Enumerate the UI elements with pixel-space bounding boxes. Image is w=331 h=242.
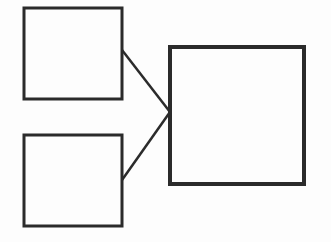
nodes-group: [24, 8, 304, 226]
connector-bottom-left-to-right: [122, 112, 170, 180]
box-top-left: [24, 8, 122, 99]
edges-group: [122, 50, 170, 180]
box-bottom-left: [24, 135, 122, 226]
diagram-canvas: [0, 0, 331, 242]
diagram-svg: [0, 0, 331, 242]
box-right: [170, 47, 304, 184]
connector-top-left-to-right: [122, 50, 170, 112]
